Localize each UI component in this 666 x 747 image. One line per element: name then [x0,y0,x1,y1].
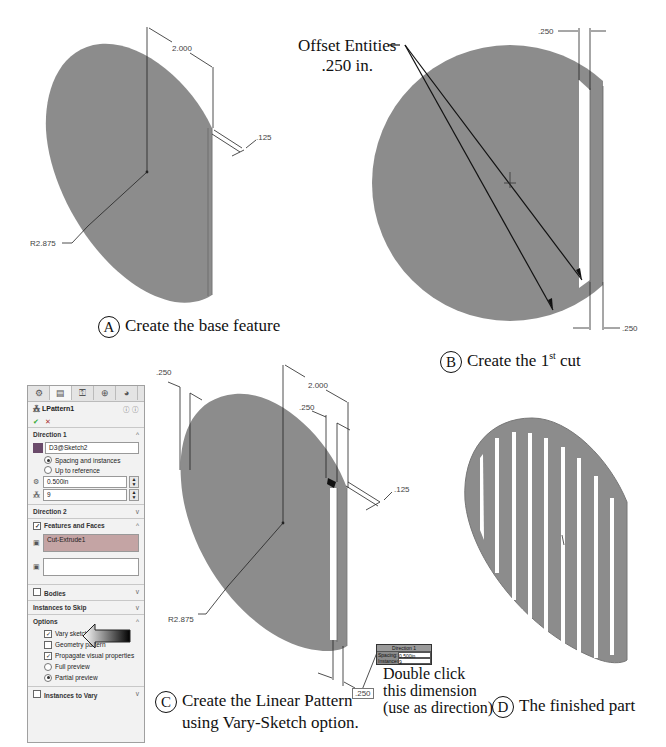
section-instances-to-vary[interactable]: Instances to Varyv [28,686,144,702]
geometry-pattern-checkbox[interactable] [44,641,52,649]
dim-c-left: .250 [156,368,172,377]
opt-spacing-radio[interactable]: Spacing and instances [28,455,144,465]
instances-to-vary-checkbox[interactable] [33,690,41,698]
features-checkbox[interactable]: ✓ [33,522,41,530]
faces-list[interactable] [43,558,139,576]
help-icon[interactable]: ⓘ ⓘ [123,404,139,414]
vary-sketch-checkbox[interactable]: ✓ [44,630,52,638]
dim-b-bottom: .250 [622,324,638,333]
caption-b-post: cut [556,351,581,370]
callout-line1: Offset Entities [298,36,396,56]
label-a-circle: A [98,316,120,338]
radio-selected [44,456,52,464]
pm-header: ⁂ LPattern1 ⓘ ⓘ [28,402,144,416]
caption-b-text: Create the 1 [467,351,549,370]
offset-entities-callout: Offset Entities .250 in. [298,36,396,76]
linear-pattern-property-manager: ⚙ ▤ ⚿ ⊕ ◕ ⁂ LPattern1 ⓘ ⓘ ✔ ✕ Direction … [27,385,145,743]
vary-label: Instances to Vary [44,692,97,699]
label-b-circle: B [440,351,462,373]
popup-instances-input[interactable]: 9 [398,658,431,664]
tab-configuration-manager[interactable]: ⚿ [72,386,94,400]
pattern-icon: ⁂ [33,405,40,412]
property-icon: ▤ [56,388,65,398]
partial-preview-option[interactable]: Partial preview [28,672,144,683]
chevron-up-icon: ^ [136,522,139,530]
popup-instances-label: Instances: [377,658,398,664]
section-instances-to-skip[interactable]: Instances to Skipv [28,600,144,614]
chevron-down-icon: v [136,690,139,699]
spacing-stepper[interactable]: ▲▼ [129,476,139,488]
direction1-reference-row: D3@Sketch2 [28,441,144,455]
direction-icon [33,443,43,453]
caption-d: DThe finished part [492,696,635,718]
popup-instances-row: Instances:9 [377,658,431,664]
tab-dimxpert[interactable]: ⊕ [94,386,116,400]
tab-display-manager[interactable]: ◕ [116,386,138,400]
direction1-reference-field[interactable]: D3@Sketch2 [45,442,139,454]
partial-preview-label: Partial preview [55,674,98,681]
config-icon: ⚿ [79,388,86,399]
dim-a-radius: R2.875 [30,239,56,248]
spacing-icon: ⚙ [33,478,43,486]
ok-button[interactable]: ✔ [33,418,39,426]
label-c-circle: C [155,691,177,713]
section-bodies[interactable]: Bodiesv [28,584,144,600]
instances-stepper[interactable]: ▲▼ [129,489,139,501]
bodies-checkbox[interactable] [33,588,41,596]
instances-icon: ⁂ [33,491,43,499]
dim-a-thickness: .125 [256,133,272,142]
opt-reference-radio[interactable]: Up to reference [28,465,144,475]
figure-c-drawing [140,360,420,690]
opt-reference-label: Up to reference [55,467,100,474]
full-preview-label: Full preview [55,663,90,670]
chevron-down-icon: v [136,604,139,611]
features-list-item[interactable]: Cut-Extrude1 [47,536,85,543]
pm-tabs: ⚙ ▤ ⚿ ⊕ ◕ [28,386,144,402]
options-label: Options [33,618,58,625]
full-preview-option[interactable]: Full preview [28,661,144,672]
propagate-option[interactable]: ✓Propagate visual properties [28,650,144,661]
dim-b-top: .250 [538,27,554,36]
spacing-row: ⚙ 0.500in ▲▼ [28,475,144,488]
dim-c-radius: R2.875 [168,615,194,624]
figure-a-drawing [0,0,300,320]
crosshair-icon: ⊕ [101,388,109,398]
appearance-icon: ◕ [124,388,129,398]
caption-b: BCreate the 1st cut [440,350,581,373]
section-features[interactable]: ✓Features and Faces^ [28,518,144,533]
propagate-label: Propagate visual properties [55,652,134,659]
callout-line2: .250 in. [298,56,396,76]
caption-c-line1: Create the Linear Pattern [182,691,352,710]
caption-a: ACreate the base feature [98,316,280,338]
note-line3: (use as direction) [383,699,493,716]
face-cube-icon: ▣ [33,563,43,571]
features-label: Features and Faces [44,522,105,529]
cancel-button[interactable]: ✕ [45,418,51,426]
spacing-input[interactable]: 0.500in [43,476,127,488]
propagate-checkbox[interactable]: ✓ [44,652,52,660]
direction-popup: Direction 1 Spacing:0.500in Instances:9 [376,644,432,665]
tab-property-manager[interactable]: ▤ [50,386,72,400]
feature-cube-icon: ▣ [33,539,43,547]
caption-c: CCreate the Linear Pattern using Vary-Sk… [155,691,359,733]
radio-unselected [44,466,52,474]
tab-feature-manager[interactable]: ⚙ [28,386,50,400]
chevron-up-icon: ^ [136,618,139,625]
label-d-circle: D [492,696,514,718]
radio-selected [44,674,52,682]
figure-d-drawing [460,390,666,690]
section-direction2[interactable]: Direction 2v [28,504,144,518]
skip-label: Instances to Skip [33,604,86,611]
instances-input[interactable]: 9 [43,489,127,501]
chevron-down-icon: v [136,588,139,597]
radio-unselected [44,663,52,671]
chevron-down-icon: v [136,508,139,515]
section-direction1[interactable]: Direction 1^ [28,427,144,441]
pm-title: LPattern1 [42,405,74,412]
features-list-row: ▣ Cut-Extrude1 [28,533,144,553]
features-list[interactable]: Cut-Extrude1 [43,534,139,552]
feature-tree-icon: ⚙ [35,388,43,398]
highlight-arrow-icon [82,623,132,649]
dim-c-thickness: .125 [394,485,410,494]
caption-c-line2: using Vary-Sketch option. [155,713,359,733]
